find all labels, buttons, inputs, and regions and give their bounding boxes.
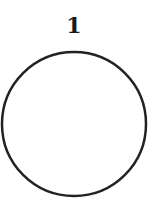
- diagram-canvas: [0, 0, 156, 208]
- circle-node: [2, 52, 146, 196]
